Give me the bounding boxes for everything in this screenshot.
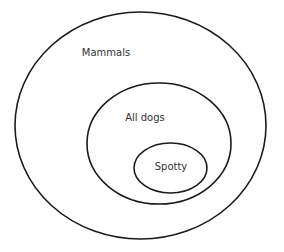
spotty-label: Spotty xyxy=(155,161,188,172)
all-dogs-label: All dogs xyxy=(125,112,165,123)
mammals-label: Mammals xyxy=(82,47,130,58)
venn-diagram xyxy=(0,0,284,252)
